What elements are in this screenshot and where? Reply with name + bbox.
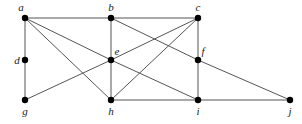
vertex-label-j: j — [286, 105, 291, 117]
vertex-d — [22, 57, 28, 63]
vertices-group — [22, 15, 293, 103]
vertex-e — [108, 57, 114, 63]
vertex-label-b: b — [108, 1, 114, 13]
vertex-j — [287, 97, 293, 103]
vertex-f — [195, 57, 201, 63]
vertex-label-g: g — [22, 105, 28, 117]
edge-a-e — [25, 18, 111, 60]
vertex-c — [195, 15, 201, 21]
edge-c-h — [111, 18, 198, 100]
edge-e-g — [25, 60, 111, 100]
vertex-label-a: a — [18, 1, 24, 13]
vertex-label-i: i — [196, 105, 199, 117]
edge-a-h — [25, 18, 111, 100]
graph-diagram: abcdefghij — [0, 0, 302, 124]
edge-e-i — [111, 60, 198, 100]
vertex-i — [195, 97, 201, 103]
vertex-a — [22, 15, 28, 21]
vertex-label-h: h — [108, 105, 114, 117]
edges-group — [25, 18, 290, 100]
vertex-label-c: c — [196, 1, 201, 13]
vertex-label-d: d — [14, 54, 20, 66]
vertex-label-f: f — [201, 45, 206, 57]
vertex-label-e: e — [115, 45, 120, 57]
edge-f-j — [198, 60, 290, 100]
vertex-h — [108, 97, 114, 103]
vertex-g — [22, 97, 28, 103]
vertex-b — [108, 15, 114, 21]
